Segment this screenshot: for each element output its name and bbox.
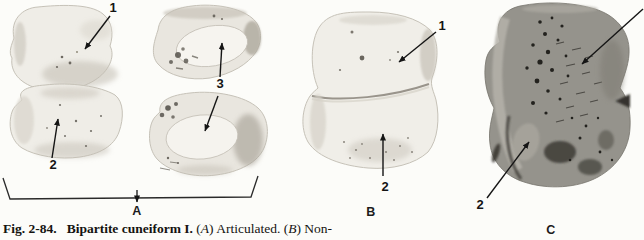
callout-c-2: 2 [476,198,483,212]
bone-b [303,12,438,168]
callout-b-2: 2 [381,180,388,194]
panel-a-bracket [3,176,258,199]
panel-letter-b: B [366,206,376,219]
callout-a-3: 3 [216,77,223,91]
panel-letter-c: C [546,224,556,237]
caption-fig-number: Fig. 2-84. [3,221,57,236]
bone-a-lower-left [10,84,122,158]
callout-a-2: 2 [49,158,56,172]
figure-caption: Fig. 2-84.Bipartite cuneiform I. (A) Art… [3,221,423,237]
callout-b-1: 1 [438,19,445,33]
bone-a-upper-right [153,5,261,79]
caption-title: Bipartite cuneiform I. [67,221,193,236]
panel-letter-a: A [132,205,142,218]
bone-a-upper-left [10,5,118,90]
callout-a-1: 1 [109,1,116,15]
figure-2-84: 1 2 3 A 1 2 B 2 C Fig. 2-84.Bipartite cu… [0,0,644,240]
figure-artwork [0,0,644,240]
caption-body: (A) Articulated. (B) Non- [196,221,332,236]
bone-a-lower-right [150,92,268,176]
bone-c [485,3,630,187]
